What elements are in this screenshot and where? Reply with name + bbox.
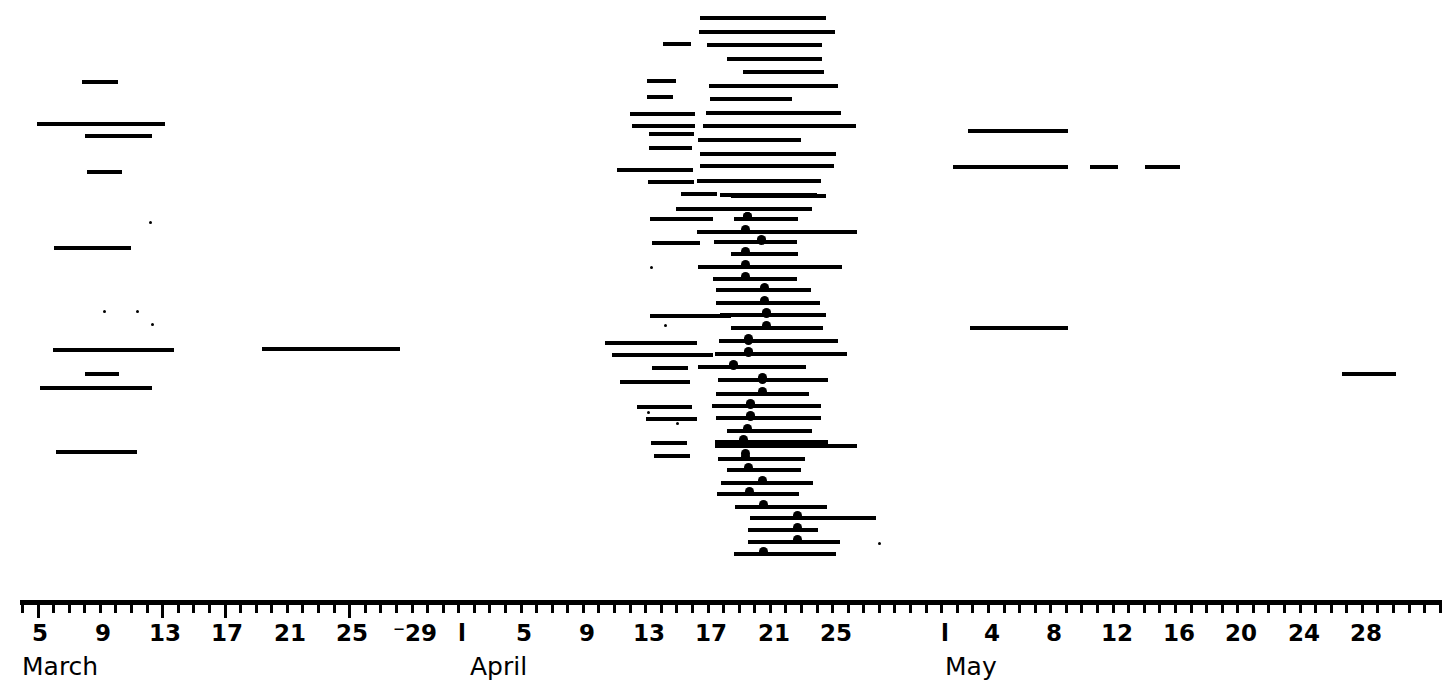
axis-minor-tick (1096, 605, 1099, 613)
axis-minor-tick (1283, 605, 1286, 613)
axis-minor-tick (644, 605, 647, 613)
gantt-bar (654, 454, 690, 458)
gantt-bar-marker-dot (744, 463, 753, 472)
gantt-bar (40, 386, 152, 390)
axis-minor-tick (1174, 605, 1177, 613)
axis-minor-tick (1080, 605, 1083, 613)
gantt-bar-marker-dot (741, 439, 750, 448)
gantt-bar (700, 164, 834, 168)
gantt-bar (676, 207, 812, 211)
gantt-bar-marker-dot (759, 500, 768, 509)
gantt-bar-marker-dot (746, 411, 755, 420)
month-label-april: April (470, 652, 527, 681)
gantt-bar-marker-dot (759, 547, 768, 556)
gantt-bar (750, 516, 876, 520)
axis-minor-tick (1112, 605, 1115, 613)
axis-minor-tick (239, 605, 242, 613)
isolated-point-dot (151, 323, 154, 326)
month-label-may: May (945, 652, 997, 681)
axis-minor-tick (1205, 605, 1208, 613)
axis-minor-tick (114, 605, 117, 613)
axis-tick-label: 16 (1163, 620, 1195, 646)
gantt-bar (646, 417, 697, 421)
isolated-point-dot (647, 411, 650, 414)
gantt-bar (707, 43, 822, 47)
gantt-bar-marker-dot (760, 283, 769, 292)
axis-minor-tick (707, 605, 710, 613)
gantt-bar (85, 372, 119, 376)
axis-minor-tick (1299, 605, 1302, 613)
axis-tick-label: 25 (820, 620, 852, 646)
gantt-bar-marker-dot (744, 347, 753, 356)
axis-tick-label: ⁻29 (393, 620, 437, 646)
axis-minor-tick (208, 605, 211, 613)
axis-tick-label: 20 (1225, 620, 1257, 646)
axis-minor-tick (535, 605, 538, 613)
axis-minor-tick (1267, 605, 1270, 613)
axis-tick-label: 8 (1046, 620, 1062, 646)
axis-minor-tick (1376, 605, 1379, 613)
gantt-bar-marker-dot (746, 399, 755, 408)
axis-minor-tick (597, 605, 600, 613)
gantt-bar-marker-dot (741, 247, 750, 256)
axis-tick-label: 5 (516, 620, 532, 646)
axis-tick-label: 5 (32, 620, 48, 646)
axis-minor-tick (800, 605, 803, 613)
axis-minor-tick (192, 605, 195, 613)
axis-minor-tick (831, 605, 834, 613)
axis-tick-label: 9 (95, 620, 111, 646)
gantt-bar (53, 348, 174, 352)
axis-minor-tick (426, 605, 429, 613)
axis-minor-tick (488, 605, 491, 613)
axis-tick-label: 13 (149, 620, 181, 646)
gantt-bar (647, 79, 676, 83)
axis-minor-tick (379, 605, 382, 613)
axis-minor-tick (738, 605, 741, 613)
gantt-bar (649, 146, 692, 150)
gantt-bar-marker-dot (741, 260, 750, 269)
axis-minor-tick (1018, 605, 1021, 613)
gantt-bar-marker-dot (762, 308, 771, 317)
gantt-bar (706, 111, 841, 115)
gantt-bar (652, 366, 688, 370)
gantt-bar (715, 444, 857, 448)
axis-minor-tick (784, 605, 787, 613)
gantt-bar (953, 165, 1068, 169)
gantt-bar (709, 84, 838, 88)
gantt-bar (710, 97, 792, 101)
axis-minor-tick (971, 605, 974, 613)
gantt-bar (37, 122, 165, 126)
gantt-bar (731, 326, 823, 330)
gantt-bar (612, 353, 713, 357)
gantt-bar-marker-dot (760, 296, 769, 305)
gantt-bar (727, 468, 801, 472)
gantt-bar (712, 404, 821, 408)
gantt-bar-marker-dot (729, 360, 738, 369)
gantt-bar (721, 481, 813, 485)
gantt-bar (1342, 372, 1396, 376)
gantt-bar (699, 30, 835, 34)
axis-minor-tick (613, 605, 616, 613)
gantt-bar-marker-dot (762, 321, 771, 330)
axis-minor-tick (940, 605, 943, 613)
axis-minor-tick (286, 605, 289, 613)
axis-minor-tick (395, 605, 398, 613)
axis-minor-tick (582, 605, 585, 613)
axis-minor-tick (816, 605, 819, 613)
axis-tick-label: 13 (633, 620, 665, 646)
axis-major-tick (161, 605, 164, 618)
gantt-bar-marker-dot (741, 452, 750, 461)
axis-tick-label: 21 (758, 620, 790, 646)
gantt-bar (714, 240, 797, 244)
axis-minor-tick (566, 605, 569, 613)
axis-tick-label: 17 (695, 620, 727, 646)
axis-minor-tick (520, 605, 523, 613)
gantt-bar-marker-dot (744, 334, 753, 343)
gantt-bar (697, 179, 821, 183)
gantt-bar (715, 352, 847, 356)
gantt-bar (56, 450, 137, 454)
axis-minor-tick (956, 605, 959, 613)
gantt-bar (718, 457, 805, 461)
gantt-bar (649, 132, 694, 136)
gantt-bar (648, 180, 694, 184)
